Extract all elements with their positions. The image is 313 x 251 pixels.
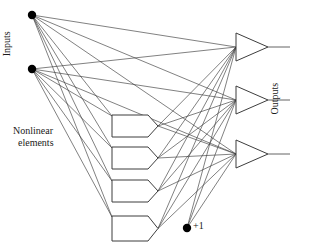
- nonlinear-label-line2: elements: [13, 137, 54, 149]
- connection-line: [32, 69, 236, 100]
- bias-label: +1: [193, 220, 204, 232]
- nonlinear-element-node: [112, 115, 158, 137]
- connection-line: [32, 15, 236, 47]
- nonlinear-element-node: [112, 147, 158, 169]
- output-amplifier-node: [236, 33, 268, 61]
- input-node: [28, 65, 36, 73]
- connection-line: [158, 47, 236, 126]
- outputs-label: Outputs: [269, 83, 281, 115]
- connection-line: [32, 15, 112, 116]
- connection-line: [187, 47, 236, 228]
- nonlinear-label-line1: Nonlinear: [13, 125, 53, 136]
- input-node: [28, 11, 36, 19]
- output-amplifier-node: [236, 86, 268, 114]
- connection-line: [187, 154, 236, 228]
- bias-node: [183, 224, 191, 232]
- nonlinear-elements-label: Nonlinear elements: [13, 125, 54, 148]
- connection-line: [158, 154, 236, 191]
- connection-line: [158, 47, 236, 158]
- connection-line: [32, 15, 112, 181]
- connection-line: [158, 154, 236, 158]
- connection-line: [32, 15, 112, 217]
- nonlinear-element-node: [112, 180, 158, 202]
- inputs-label: Inputs: [1, 31, 13, 56]
- connection-line: [187, 100, 236, 228]
- connection-line: [158, 100, 236, 126]
- connection-line: [32, 47, 236, 69]
- nonlinear-element-node: [112, 216, 158, 241]
- connection-line: [158, 100, 236, 191]
- output-amplifier-node: [236, 140, 268, 168]
- neural-network-figure: Inputs Outputs Nonlinear elements +1: [0, 0, 313, 251]
